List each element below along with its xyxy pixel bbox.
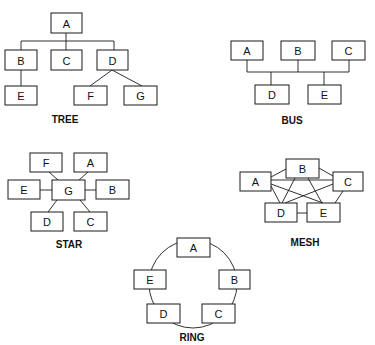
ring-node-a: A — [177, 238, 210, 257]
svg-text:B: B — [231, 274, 238, 286]
tree-node-f: F — [74, 86, 107, 105]
star-node-b: B — [96, 180, 129, 199]
svg-text:D: D — [109, 55, 117, 67]
svg-text:D: D — [43, 216, 51, 228]
svg-text:B: B — [109, 184, 116, 196]
ring-node-b: B — [219, 270, 250, 289]
svg-text:E: E — [17, 90, 24, 102]
svg-text:B: B — [294, 45, 301, 57]
mesh-node-c: C — [333, 172, 363, 191]
tree-diagram: A B C D E F G TREE — [5, 13, 157, 125]
network-topologies-figure: A B C D E F G TREE A B C D E BUS F A E G… — [0, 0, 375, 345]
ring-node-d: D — [147, 304, 180, 323]
svg-text:E: E — [20, 184, 27, 196]
svg-text:B: B — [17, 55, 24, 67]
mesh-edge — [335, 191, 343, 203]
svg-text:A: A — [87, 157, 95, 169]
ring-node-c: C — [202, 304, 235, 323]
bus-title: BUS — [281, 115, 302, 126]
svg-text:G: G — [64, 185, 73, 197]
bus-node-e: E — [308, 85, 341, 104]
mesh-node-a: A — [240, 172, 271, 191]
star-node-e: E — [8, 180, 40, 199]
bus-diagram: A B C D E BUS — [231, 41, 365, 126]
ring-title: RING — [180, 332, 205, 343]
star-diagram: F A E G B D C STAR — [8, 153, 129, 250]
mesh-edge — [282, 178, 295, 203]
svg-text:A: A — [190, 242, 198, 254]
svg-text:A: A — [63, 18, 71, 30]
svg-text:C: C — [215, 308, 223, 320]
ring-node-e: E — [134, 270, 166, 289]
mesh-node-d: D — [265, 203, 297, 222]
tree-node-b: B — [5, 50, 37, 70]
bus-node-c: C — [332, 41, 365, 60]
tree-edge — [112, 70, 142, 86]
mesh-edge — [271, 169, 286, 177]
svg-text:G: G — [136, 90, 145, 102]
svg-text:C: C — [63, 55, 71, 67]
star-edge — [49, 172, 58, 180]
svg-text:D: D — [268, 89, 276, 101]
svg-text:B: B — [299, 163, 306, 175]
star-title: STAR — [56, 239, 83, 250]
svg-text:C: C — [345, 45, 353, 57]
svg-text:E: E — [321, 89, 328, 101]
star-node-a: A — [74, 153, 107, 172]
bus-node-b: B — [281, 41, 315, 60]
bus-node-d: D — [255, 85, 289, 104]
mesh-diagram: B A C D E MESH — [240, 159, 363, 248]
svg-text:C: C — [87, 216, 95, 228]
svg-text:E: E — [320, 207, 327, 219]
star-node-c: C — [74, 212, 107, 231]
mesh-node-e: E — [307, 203, 340, 222]
tree-edge — [90, 70, 112, 86]
tree-title: TREE — [52, 114, 79, 125]
svg-text:F: F — [87, 90, 94, 102]
svg-text:D: D — [160, 308, 168, 320]
mesh-edge — [308, 178, 322, 203]
mesh-title: MESH — [291, 237, 320, 248]
star-node-g-hub: G — [52, 180, 85, 200]
svg-text:E: E — [146, 274, 153, 286]
star-edge — [48, 200, 57, 212]
mesh-node-b: B — [286, 159, 319, 178]
svg-text:D: D — [277, 207, 285, 219]
ring-diagram: A B C D E RING — [134, 238, 250, 343]
star-node-f: F — [30, 153, 62, 172]
tree-node-e: E — [5, 86, 37, 105]
star-edge — [80, 200, 90, 212]
bus-node-a: A — [231, 41, 263, 60]
tree-node-a: A — [51, 13, 82, 33]
star-edge — [79, 172, 88, 180]
star-node-d: D — [31, 212, 63, 231]
svg-text:C: C — [344, 176, 352, 188]
tree-node-g: G — [124, 86, 157, 105]
tree-node-c: C — [51, 50, 82, 70]
mesh-edge — [271, 186, 280, 203]
tree-node-d: D — [97, 50, 128, 70]
mesh-edge — [285, 184, 333, 203]
svg-text:A: A — [252, 176, 260, 188]
svg-text:A: A — [243, 45, 251, 57]
mesh-edge — [319, 168, 333, 176]
svg-text:F: F — [43, 157, 50, 169]
